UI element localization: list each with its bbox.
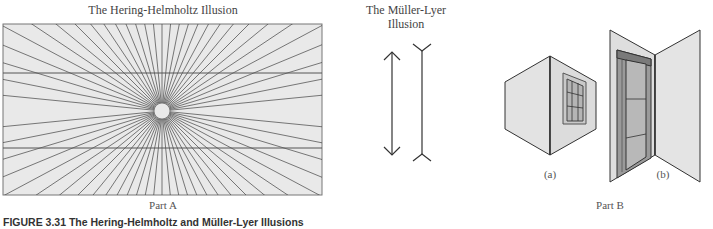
- figure-caption: FIGURE 3.31 The Hering-Helmholtz and Mül…: [3, 216, 304, 228]
- muller-lyer-figure: [384, 44, 431, 161]
- subfigure-b-label: (b): [648, 168, 678, 180]
- figure-graphics: [0, 0, 713, 229]
- muller-lyer-title-line1: The Müller-Lyer: [356, 3, 456, 17]
- room-corner-inside: [610, 30, 700, 182]
- muller-lyer-title-line2: Illusion: [356, 17, 456, 31]
- room-corner-outside: [505, 56, 596, 155]
- part-b-label: Part B: [590, 199, 630, 211]
- muller-lyer-title: The Müller-Lyer Illusion: [356, 3, 456, 31]
- subfigure-a-label: (a): [535, 168, 565, 180]
- part-a-label: Part A: [3, 199, 323, 211]
